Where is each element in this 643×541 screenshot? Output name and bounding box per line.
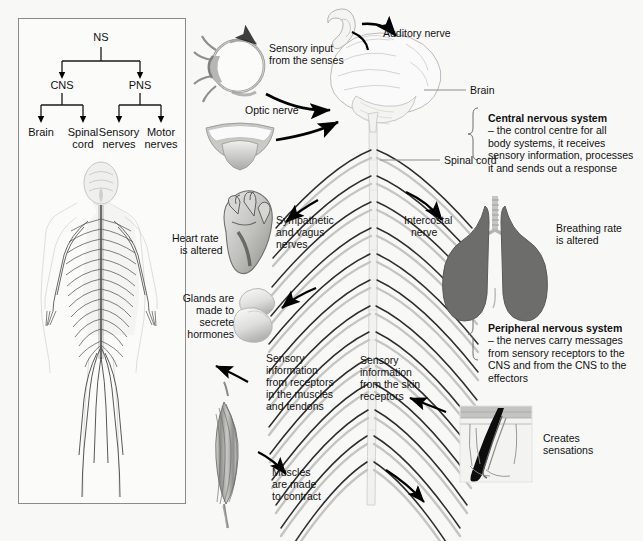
nervous-system-diagram: NS CNS PNS Brain Spinal cord Sensory ner… — [0, 0, 643, 541]
note-pns-line-3: CNS and from the CNS to the — [488, 359, 640, 371]
label-brain: Brain — [470, 84, 495, 96]
label-muscle-sensory-l2: information — [266, 364, 318, 376]
note-cns-line-4: it and sends out a response — [488, 162, 640, 174]
label-creates-sensations-l2: sensations — [543, 444, 593, 456]
label-muscles-contract-l3: to contract — [272, 490, 321, 502]
note-cns-line-2: body systems, it receives — [488, 137, 640, 149]
note-peripheral-nervous-system: Peripheral nervous system – the nerves c… — [488, 322, 640, 384]
note-cns-heading: Central nervous system — [488, 112, 640, 124]
arrow-mouth-to-brain — [276, 122, 338, 140]
label-muscles-contract-l1: Muscles — [272, 466, 311, 478]
note-pns-line-4: effectors — [488, 372, 640, 384]
label-breathing-rate-l2: is altered — [556, 234, 599, 246]
label-sympathetic-vagus-l3: nerves — [276, 238, 308, 250]
label-intercostal-nerve-l2: nerve — [411, 226, 437, 238]
gland-illustration — [234, 288, 275, 342]
heart-illustration — [224, 191, 272, 274]
label-glands-l3: secrete — [200, 316, 235, 328]
note-cns-line-1: – the control centre for all — [488, 124, 640, 136]
lungs-illustration — [443, 196, 548, 321]
label-sympathetic-vagus-l2: and vagus — [276, 226, 324, 238]
label-muscle-sensory-l1: Sensory — [266, 352, 305, 364]
skin-illustration — [460, 406, 532, 482]
label-glands-l1: Glands are — [183, 292, 235, 304]
label-heart-rate-l1: Heart rate — [172, 232, 219, 244]
label-optic-nerve: Optic nerve — [245, 104, 299, 116]
label-sensory-input-l2: from the senses — [269, 54, 344, 66]
label-heart-rate-l2: is altered — [180, 244, 223, 256]
brain-illustration — [330, 33, 440, 132]
note-pns-line-1: – the nerves carry messages — [488, 334, 640, 346]
note-pns-line-2: from sensory receptors to the — [488, 347, 640, 359]
label-skin-sensory-l2: information — [360, 366, 412, 378]
label-auditory-nerve: Auditory nerve — [383, 27, 451, 39]
arrow-skin-sensory-in — [410, 398, 446, 412]
label-muscle-sensory-l4: in the muscles — [266, 388, 333, 400]
eye-illustration — [194, 36, 264, 102]
note-cns-line-3: sensory information, processes — [488, 149, 640, 161]
label-glands-l2: made to — [196, 304, 234, 316]
label-intercostal-nerve-l1: Intercostal — [404, 214, 452, 226]
label-breathing-rate-l1: Breathing rate — [556, 222, 622, 234]
arrow-muscle-sensory-in — [216, 366, 248, 382]
label-muscle-sensory-l3: from receptors — [266, 376, 334, 388]
main-diagram-canvas: Sensory input from the senses Auditory n… — [0, 0, 643, 541]
label-sensory-input-l1: Sensory input — [269, 42, 333, 54]
label-skin-sensory-l1: Sensory — [360, 354, 399, 366]
brace-central-nervous-system — [468, 108, 478, 160]
label-muscle-sensory-l5: and tendons — [266, 400, 324, 412]
muscle-illustration — [216, 382, 239, 528]
label-muscles-contract-l2: are made — [272, 478, 317, 490]
label-skin-sensory-l3: from the skin — [360, 378, 420, 390]
note-central-nervous-system: Central nervous system – the control cen… — [488, 112, 640, 174]
mouth-illustration — [206, 123, 274, 170]
label-sympathetic-vagus-l1: Sympathetic — [276, 214, 334, 226]
label-creates-sensations-l1: Creates — [543, 432, 580, 444]
note-pns-heading: Peripheral nervous system — [488, 322, 640, 334]
label-skin-sensory-l4: receptors — [360, 390, 404, 402]
label-glands-l4: hormones — [187, 328, 234, 340]
